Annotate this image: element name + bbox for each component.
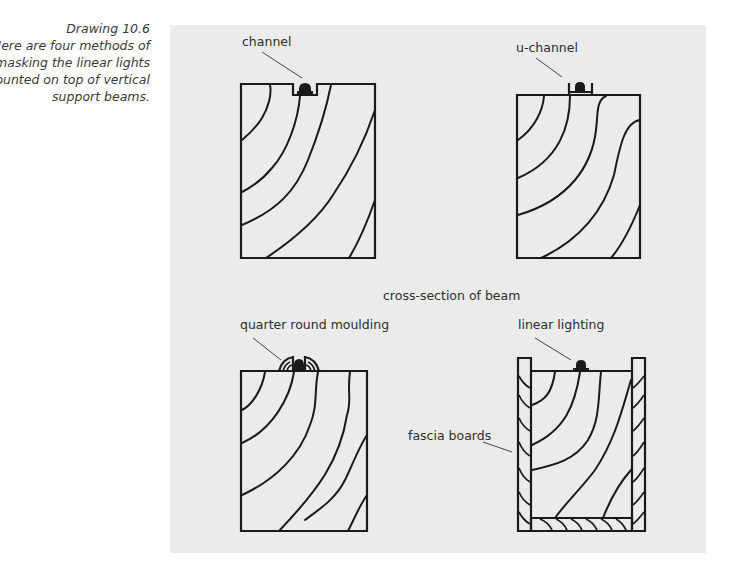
beam-drawings — [0, 0, 736, 566]
quarter-round-beam-diagram — [241, 338, 367, 531]
u-channel-beam-diagram — [517, 58, 640, 258]
linear-light-icon — [575, 82, 585, 91]
linear-light-icon — [294, 359, 304, 370]
fascia-beam-diagram — [483, 338, 645, 531]
channel-beam-diagram — [241, 52, 375, 258]
